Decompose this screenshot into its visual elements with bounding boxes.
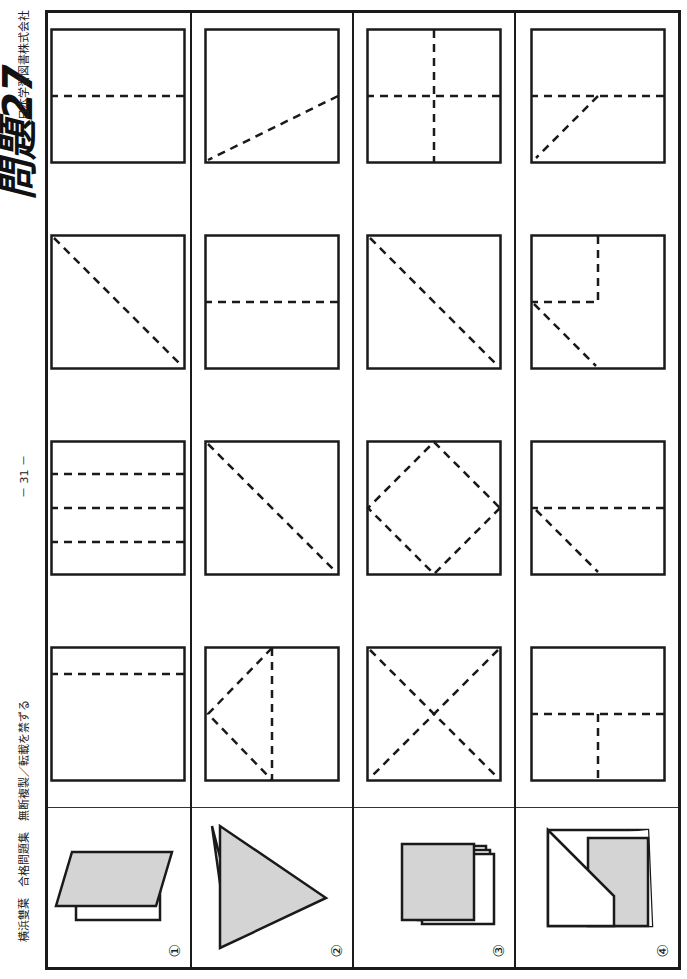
choice-square-4-4[interactable] — [530, 28, 666, 164]
example-cell-2: ② — [192, 807, 352, 967]
copyright-notice: 横浜雙葉 合格問題集 無断複製／転載を禁ずる — [15, 700, 31, 942]
fold-diagram — [366, 440, 502, 576]
choice-square-2-1[interactable] — [204, 646, 340, 782]
folded-paper-example — [520, 808, 678, 966]
fold-diagram — [204, 440, 340, 576]
fold-diagram — [50, 646, 186, 782]
worksheet-page: 問題27 — [0, 0, 687, 979]
choice-square-1-4[interactable] — [50, 28, 186, 164]
choice-square-3-4[interactable] — [366, 28, 502, 164]
fold-diagram — [530, 646, 666, 782]
page-number: － 31 － — [15, 455, 31, 498]
fold-diagram — [530, 440, 666, 576]
question-row-2: ② — [192, 13, 354, 967]
question-row-4: ④ — [516, 13, 678, 967]
example-cell-4: ④ — [516, 807, 678, 967]
fold-diagram — [204, 646, 340, 782]
folded-paper-example — [46, 808, 190, 966]
folded-paper-example — [194, 808, 352, 966]
example-cell-1: ① — [48, 807, 190, 967]
choice-square-3-1[interactable] — [366, 646, 502, 782]
choice-square-2-2[interactable] — [204, 440, 340, 576]
question-table: ④ — [45, 10, 681, 970]
fold-diagram — [204, 28, 340, 164]
choice-square-2-3[interactable] — [204, 234, 340, 370]
row-label-1: ① — [166, 944, 184, 957]
row-label-3: ③ — [490, 944, 508, 957]
fold-diagram — [50, 440, 186, 576]
choice-square-3-3[interactable] — [366, 234, 502, 370]
page-footer: 日本学習図書株式会社 － 31 － 横浜雙葉 合格問題集 無断複製／転載を禁ずる — [9, 0, 39, 979]
fold-diagram — [366, 646, 502, 782]
choice-square-4-2[interactable] — [530, 440, 666, 576]
choice-square-1-3[interactable] — [50, 234, 186, 370]
choice-square-1-1[interactable] — [50, 646, 186, 782]
fold-diagram — [50, 28, 186, 164]
fold-diagram — [50, 234, 186, 370]
choice-square-3-2[interactable] — [366, 440, 502, 576]
example-cell-3: ③ — [354, 807, 514, 967]
publisher-name: 日本学習図書株式会社 — [15, 10, 31, 120]
fold-diagram — [530, 234, 666, 370]
question-row-3: ③ — [354, 13, 516, 967]
choice-square-4-3[interactable] — [530, 234, 666, 370]
row-label-2: ② — [328, 944, 346, 957]
choice-square-1-2[interactable] — [50, 440, 186, 576]
fold-diagram — [530, 28, 666, 164]
question-row-1: ① — [48, 13, 192, 967]
row-label-4: ④ — [654, 944, 672, 957]
folded-paper-example — [356, 808, 514, 966]
fold-diagram — [204, 234, 340, 370]
choice-square-4-1[interactable] — [530, 646, 666, 782]
fold-diagram — [366, 234, 502, 370]
fold-diagram — [366, 28, 502, 164]
choice-square-2-4[interactable] — [204, 28, 340, 164]
